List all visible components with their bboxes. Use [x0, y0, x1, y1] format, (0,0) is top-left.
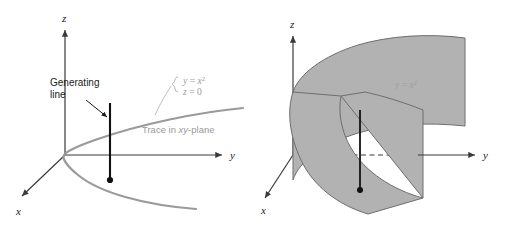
trace-label-prefix: Trace in [142, 124, 179, 135]
z-axis-label-left: z [61, 12, 67, 24]
equation-brace-left [172, 77, 178, 92]
right-panel: z x y y=x2 [253, 0, 506, 234]
x-axis-right [265, 155, 293, 198]
surface-eq-rel: = [402, 80, 407, 90]
equation-line-2: z=0 [182, 87, 202, 97]
generating-line-label-line1: Generating [50, 77, 99, 88]
right-panel-svg: z x y y=x2 [253, 0, 506, 234]
equation-1-exponent: 2 [202, 75, 205, 82]
x-axis-left [22, 155, 65, 196]
z-axis-label-right: z [289, 18, 295, 30]
figure-root: z y x Generating line y=x2 z=0 [0, 0, 506, 234]
left-panel-svg: z y x Generating line y=x2 z=0 [0, 0, 253, 234]
point-marker-left [107, 177, 113, 183]
y-axis-label-left: y [229, 149, 235, 161]
equation-2-lhs: z [182, 87, 187, 97]
equation-1-rel: = [190, 76, 195, 86]
trace-in-xy-plane-label: Trace in xy-plane [142, 124, 215, 135]
trace-label-suffix: -plane [188, 124, 214, 135]
surface-equation-label: y=x2 [394, 79, 417, 91]
left-panel: z y x Generating line y=x2 z=0 [0, 0, 253, 234]
equation-1-lhs: y [182, 76, 188, 86]
equation-leader-line [155, 86, 171, 115]
x-axis-label-right: x [260, 204, 266, 216]
surface-eq-exponent: 2 [414, 79, 417, 86]
surface-eq-lhs: y [394, 80, 400, 90]
equation-2-rhs: 0 [197, 87, 202, 97]
equation-line-1: y=x2 [182, 75, 205, 87]
generating-line-callout-arrow [86, 100, 107, 117]
point-marker-right [357, 187, 363, 193]
equation-2-rel: = [189, 87, 194, 97]
generating-line-label-line2: line [50, 89, 66, 100]
x-axis-label-left: x [15, 205, 21, 217]
y-axis-label-right: y [482, 149, 488, 161]
